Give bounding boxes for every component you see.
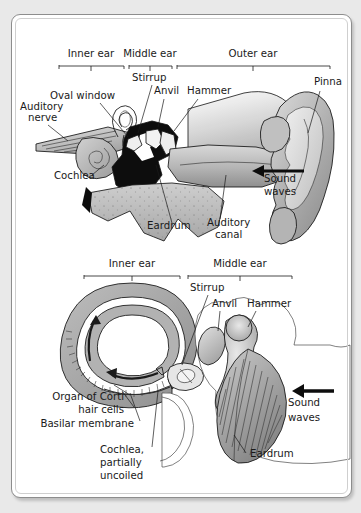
label-sound-lower: Sound bbox=[288, 397, 320, 408]
label-sound-upper: Sound bbox=[264, 173, 296, 184]
upper-region-brackets bbox=[59, 65, 330, 71]
stirrup-lower bbox=[167, 363, 203, 391]
figure-card: Inner ear Middle ear Outer ear Auditory … bbox=[11, 14, 352, 498]
label-pinna: Pinna bbox=[314, 76, 342, 87]
label-cochlea-partially-3: uncoiled bbox=[100, 470, 143, 481]
bracket-label-inner-ear-lower: Inner ear bbox=[109, 258, 156, 269]
label-anvil-lower: Anvil bbox=[212, 298, 237, 309]
label-cochlea-partially-2: partially bbox=[100, 457, 142, 468]
label-auditory-nerve-2: nerve bbox=[28, 112, 57, 123]
label-auditory-nerve-1: Auditory bbox=[20, 101, 63, 112]
bracket-label-outer-ear: Outer ear bbox=[229, 48, 279, 59]
label-anvil-upper: Anvil bbox=[154, 85, 179, 96]
label-auditory-canal-1: Auditory bbox=[207, 217, 250, 228]
label-oval-window: Oval window bbox=[50, 90, 115, 101]
label-eardrum-upper: Eardrum bbox=[147, 220, 191, 231]
ear-anatomy-plate: Inner ear Middle ear Outer ear Auditory … bbox=[12, 15, 351, 497]
temporal-bone-upper bbox=[82, 183, 224, 241]
label-stirrup-lower: Stirrup bbox=[190, 282, 224, 293]
label-organ-of-corti: Organ of Corti bbox=[52, 391, 124, 402]
label-hammer-lower: Hammer bbox=[247, 298, 292, 309]
label-waves-upper: waves bbox=[264, 186, 296, 197]
label-hammer-upper: Hammer bbox=[187, 85, 232, 96]
bracket-label-middle-ear-lower: Middle ear bbox=[213, 258, 267, 269]
lower-region-brackets: Inner ear Middle ear bbox=[84, 258, 292, 281]
bracket-label-inner-ear: Inner ear bbox=[68, 48, 115, 59]
bracket-label-middle-ear: Middle ear bbox=[123, 48, 177, 59]
label-waves-lower: waves bbox=[288, 412, 320, 423]
label-hair-cells: hair cells bbox=[78, 404, 124, 415]
label-eardrum-lower: Eardrum bbox=[250, 448, 294, 459]
label-stirrup-upper: Stirrup bbox=[132, 72, 166, 83]
label-auditory-canal-2: canal bbox=[215, 229, 242, 240]
label-cochlea-partially-1: Cochlea, bbox=[100, 444, 144, 455]
label-basilar-membrane: Basilar membrane bbox=[40, 418, 134, 429]
label-cochlea-upper: Cochlea bbox=[54, 170, 95, 181]
